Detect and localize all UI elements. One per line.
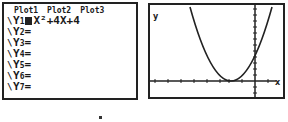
plot3-toggle[interactable]: Plot3 (80, 6, 104, 15)
parabola-curve (190, 7, 272, 81)
graph-canvas: y x (150, 5, 283, 97)
function-expression[interactable]: X²+4X+4 (33, 14, 79, 27)
equals-sign: = (24, 80, 31, 93)
function-row-y7[interactable]: \Y7= (7, 81, 80, 92)
y-axis-label: y (153, 12, 159, 21)
graph-screen: y x (148, 3, 285, 99)
x-axis-label: x (275, 78, 281, 87)
selected-equals-icon[interactable] (25, 17, 32, 25)
decorative-dot (99, 116, 102, 119)
y-editor-screen: Plot1Plot2Plot3 \Y1X²+4X+4 \Y2= \Y3= \Y4… (2, 2, 138, 100)
function-name: Y (13, 80, 20, 93)
